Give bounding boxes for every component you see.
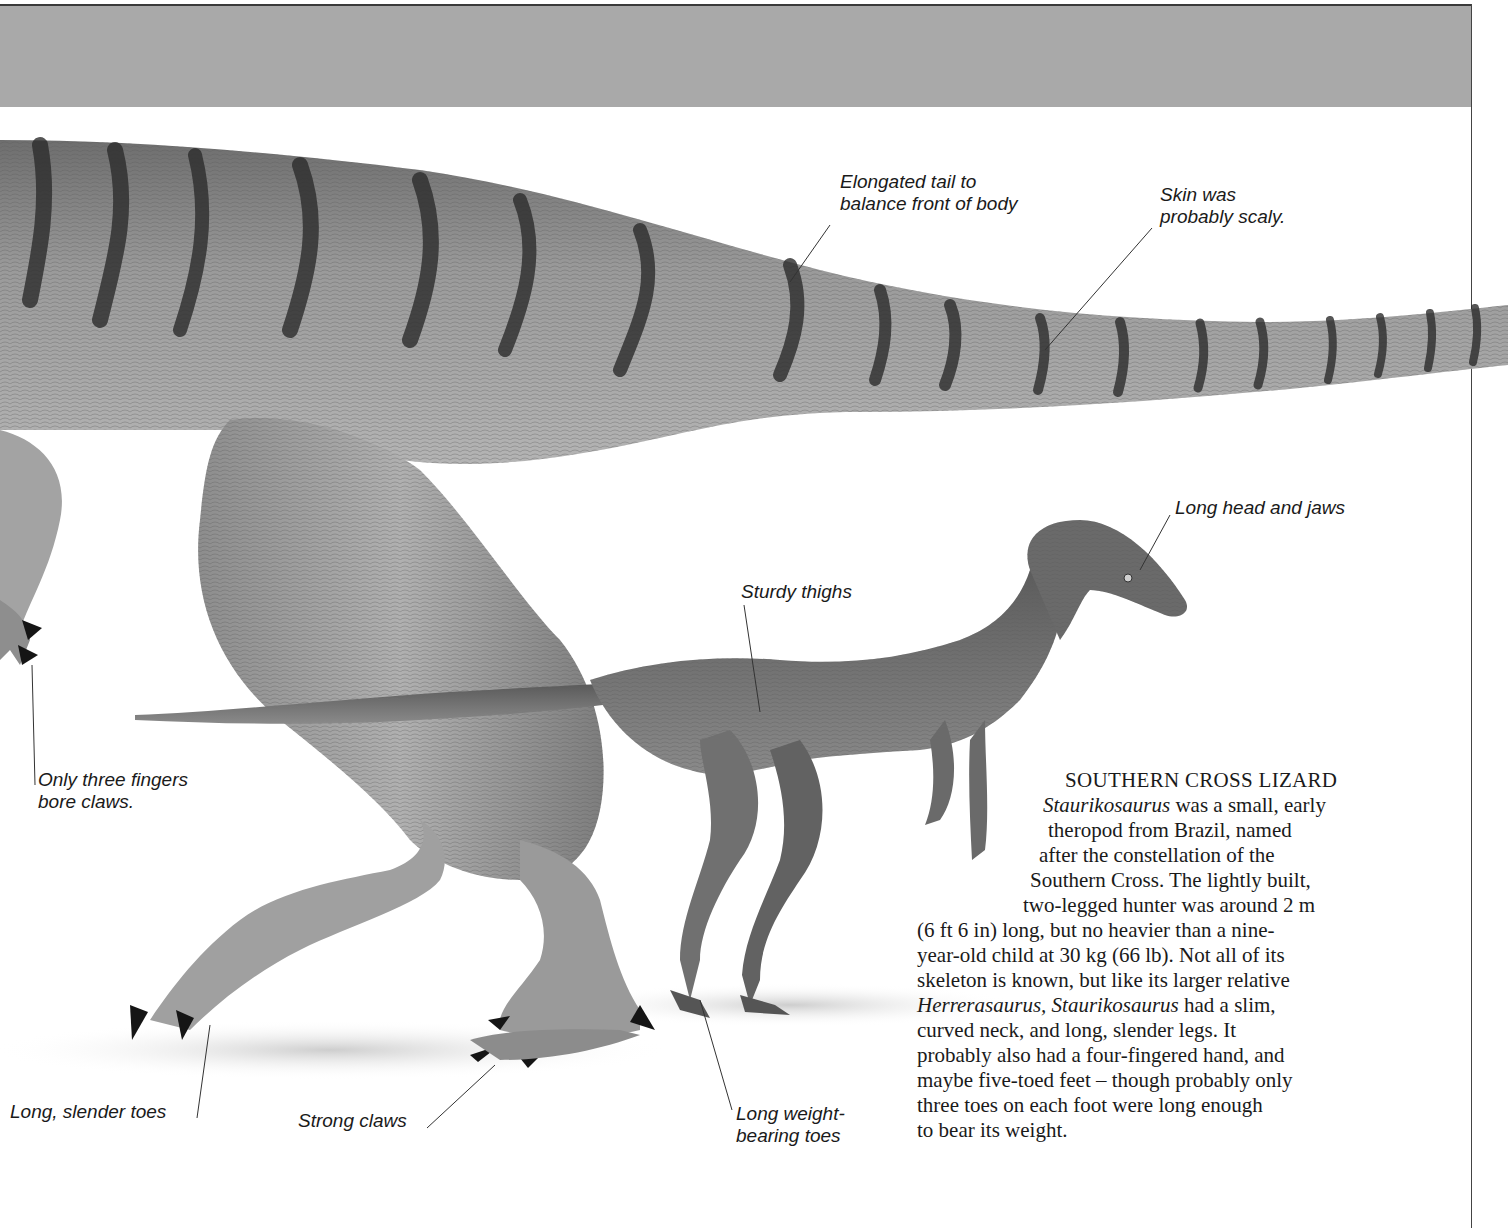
label-skin: Skin was probably scaly. <box>1160 184 1285 228</box>
label-weight-bearing-toes: Long weight- bearing toes <box>736 1103 845 1147</box>
label-fingers: Only three fingers bore claws. <box>38 769 188 813</box>
label-thighs: Sturdy thighs <box>741 581 852 603</box>
label-tail: Elongated tail to balance front of body <box>840 171 1017 215</box>
label-strong-claws: Strong claws <box>298 1110 407 1132</box>
label-head: Long head and jaws <box>1175 497 1345 519</box>
label-slender-toes: Long, slender toes <box>10 1101 166 1123</box>
